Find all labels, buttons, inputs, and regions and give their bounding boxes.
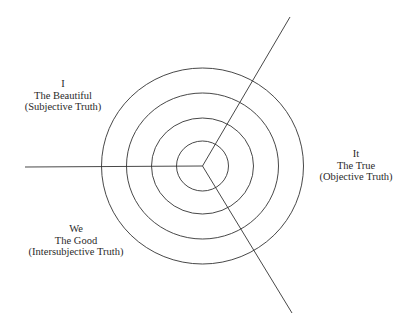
label-we-value: The Good	[29, 235, 124, 247]
label-i-the-beautiful: I The Beautiful (Subjective Truth)	[25, 78, 102, 113]
left-axis	[25, 166, 203, 167]
upper-right-axis	[203, 17, 291, 166]
lower-right-axis	[203, 166, 293, 313]
label-i-truth: (Subjective Truth)	[25, 101, 102, 113]
axes-group	[25, 17, 292, 313]
label-we-pronoun: We	[29, 223, 124, 235]
label-it-pronoun: It	[319, 148, 392, 160]
label-it-value: The True	[319, 160, 392, 172]
label-i-pronoun: I	[25, 78, 102, 90]
label-we-the-good: We The Good (Intersubjective Truth)	[29, 223, 124, 258]
label-it-the-true: It The True (Objective Truth)	[319, 148, 392, 183]
diagram-canvas: I The Beautiful (Subjective Truth) It Th…	[0, 0, 413, 332]
label-we-truth: (Intersubjective Truth)	[29, 246, 124, 258]
label-it-truth: (Objective Truth)	[319, 171, 392, 183]
label-i-value: The Beautiful	[25, 90, 102, 102]
